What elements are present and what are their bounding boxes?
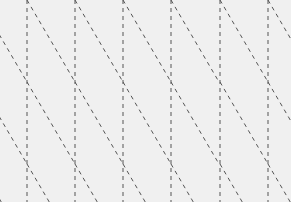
diagonal-dashed-line: [171, 164, 219, 202]
diagonal-dashed-line: [220, 82, 268, 164]
diagonal-dashed-line: [220, 0, 268, 82]
diagonal-dashed-line: [0, 0, 27, 82]
diagonal-dashed-line: [268, 0, 291, 82]
diagonal-dashed-line: [75, 82, 123, 164]
diagonal-dashed-line: [171, 82, 219, 164]
diagonal-dashed-line: [0, 82, 27, 164]
pattern-graphic: [0, 0, 291, 202]
diagonal-dashed-line: [268, 82, 291, 164]
diagonal-dashed-line: [268, 164, 291, 202]
dashed-line-pattern: [0, 0, 291, 202]
diagonal-dashed-line: [27, 82, 75, 164]
diagonal-dashed-line: [0, 164, 27, 202]
diagonal-dashed-line: [75, 0, 123, 82]
diagonal-dashed-line: [123, 164, 171, 202]
diagonal-dashed-line: [27, 0, 75, 82]
diagonal-dashed-line: [123, 82, 171, 164]
diagonal-dashed-line: [220, 164, 268, 202]
diagonal-dashed-line: [27, 164, 75, 202]
diagonal-dashed-line: [123, 0, 171, 82]
diagonal-dashed-line: [171, 0, 219, 82]
diagonal-dashed-line: [75, 164, 123, 202]
